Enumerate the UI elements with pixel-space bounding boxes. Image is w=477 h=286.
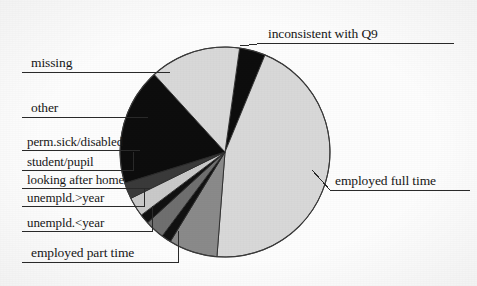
label-missing: missing — [31, 55, 72, 70]
label-unempld-under-year: unempld.<year — [27, 215, 104, 230]
label-perm-sick-disabled: perm.sick/disabled — [27, 134, 123, 149]
label-student-pupil: student/pupil — [27, 154, 94, 169]
label-unempld-over-year: unempld.>year — [27, 190, 104, 205]
pie-chart-figure: inconsistent with Q9 missing other perm.… — [0, 0, 477, 286]
label-looking-after-home: looking after home — [27, 172, 124, 187]
label-employed-full-time: employed full time — [335, 173, 436, 188]
label-other: other — [31, 100, 58, 115]
label-inconsistent-with-q9: inconsistent with Q9 — [268, 26, 378, 41]
label-employed-part-time: employed part time — [31, 245, 134, 260]
leader-line-inconsistent-with-q9-tail — [240, 43, 266, 46]
